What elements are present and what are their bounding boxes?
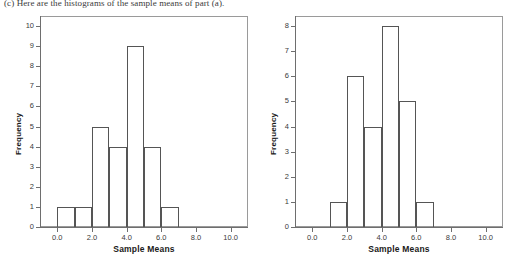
x-axis-tick-label: 8.0 <box>436 233 466 242</box>
histogram-panel: Frequency Sample Means 0123456789100.02.… <box>0 10 508 272</box>
x-axis-tick <box>161 228 162 232</box>
left-x-axis-label: Sample Means <box>40 244 248 254</box>
y-axis-tick-label: 3 <box>14 162 34 171</box>
x-axis-tick <box>92 228 93 232</box>
y-axis-tick-label: 4 <box>14 142 34 151</box>
x-axis-tick <box>231 228 232 232</box>
y-axis-tick-label: 8 <box>14 61 34 70</box>
left-bars-container <box>40 16 248 227</box>
histogram-bar <box>416 202 433 227</box>
y-axis-tick <box>36 147 40 148</box>
histogram-bar <box>161 207 178 227</box>
y-axis-tick-label: 2 <box>14 182 34 191</box>
y-axis-tick <box>36 106 40 107</box>
y-axis-tick-label: 6 <box>269 71 289 80</box>
histogram-bar <box>399 101 416 227</box>
histogram-bar <box>57 207 74 227</box>
y-axis-tick <box>36 46 40 47</box>
x-axis-tick <box>312 228 313 232</box>
y-axis-tick-label: 0 <box>269 222 289 231</box>
y-axis-tick <box>36 26 40 27</box>
y-axis-tick <box>291 51 295 52</box>
y-axis-tick-label: 3 <box>269 147 289 156</box>
histogram-bar <box>109 147 126 227</box>
y-axis-tick <box>36 127 40 128</box>
histogram-bar <box>347 76 364 227</box>
y-axis-tick-label: 5 <box>14 122 34 131</box>
histogram-bar <box>364 127 381 227</box>
x-axis-tick <box>196 228 197 232</box>
left-histogram-chart: Frequency Sample Means 0123456789100.02.… <box>0 10 254 272</box>
y-axis-tick <box>291 227 295 228</box>
histogram-bar <box>75 207 92 227</box>
x-axis-tick-label: 6.0 <box>146 233 176 242</box>
x-axis-tick-label: 2.0 <box>77 233 107 242</box>
y-axis-tick <box>36 227 40 228</box>
x-axis-tick <box>127 228 128 232</box>
y-axis-tick <box>291 177 295 178</box>
x-axis-tick-label: 6.0 <box>401 233 431 242</box>
histogram-bar <box>144 147 161 227</box>
y-axis-tick-label: 1 <box>14 202 34 211</box>
figure-caption: (c) Here are the histograms of the sampl… <box>4 0 224 8</box>
x-axis-tick-label: 10.0 <box>471 233 501 242</box>
y-axis-tick <box>36 207 40 208</box>
y-axis-tick <box>291 26 295 27</box>
right-x-axis <box>295 227 503 228</box>
y-axis-tick-label: 7 <box>269 46 289 55</box>
x-axis-tick-label: 8.0 <box>181 233 211 242</box>
right-histogram-chart: Frequency Sample Means 0123456780.02.04.… <box>254 10 508 272</box>
y-axis-tick-label: 8 <box>269 21 289 30</box>
y-axis-tick-label: 1 <box>269 197 289 206</box>
y-axis-tick <box>36 66 40 67</box>
y-axis-tick <box>36 86 40 87</box>
x-axis-tick-label: 0.0 <box>42 233 72 242</box>
y-axis-tick <box>291 127 295 128</box>
x-axis-tick-label: 0.0 <box>297 233 327 242</box>
y-axis-tick <box>36 187 40 188</box>
x-axis-tick <box>57 228 58 232</box>
x-axis-tick-label: 10.0 <box>216 233 246 242</box>
y-axis-tick <box>291 152 295 153</box>
y-axis-tick-label: 0 <box>14 222 34 231</box>
y-axis-tick <box>291 76 295 77</box>
y-axis-tick <box>36 167 40 168</box>
histogram-bar <box>127 46 144 227</box>
y-axis-tick-label: 10 <box>14 21 34 30</box>
left-x-axis <box>40 227 248 228</box>
x-axis-tick <box>382 228 383 232</box>
x-axis-tick <box>416 228 417 232</box>
x-axis-tick <box>451 228 452 232</box>
y-axis-tick-label: 5 <box>269 96 289 105</box>
y-axis-tick-label: 7 <box>14 81 34 90</box>
right-bars-container <box>295 16 503 227</box>
histogram-bar <box>330 202 347 227</box>
x-axis-tick-label: 4.0 <box>112 233 142 242</box>
y-axis-tick-label: 6 <box>14 101 34 110</box>
y-axis-tick <box>291 101 295 102</box>
y-axis-tick-label: 4 <box>269 122 289 131</box>
y-axis-tick-label: 2 <box>269 172 289 181</box>
right-x-axis-label: Sample Means <box>295 244 503 254</box>
x-axis-tick <box>347 228 348 232</box>
x-axis-tick <box>486 228 487 232</box>
histogram-bar <box>382 26 399 227</box>
x-axis-tick-label: 4.0 <box>367 233 397 242</box>
x-axis-tick-label: 2.0 <box>332 233 362 242</box>
histogram-bar <box>92 127 109 227</box>
y-axis-tick <box>291 202 295 203</box>
y-axis-tick-label: 9 <box>14 41 34 50</box>
